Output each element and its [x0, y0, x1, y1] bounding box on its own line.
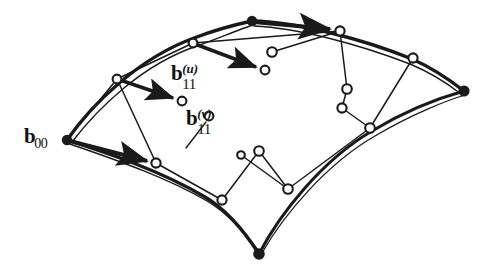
corner-b03: [253, 248, 265, 260]
bezier-patch-figure: b00 b(u)11 b(v)11: [0, 0, 495, 273]
control-net-edges: [67, 31, 413, 200]
boundary-top-left-inner: [72, 25, 253, 142]
edge-cp413-58-to-cp370-128: [370, 58, 413, 128]
label-b11v-base: b: [186, 106, 197, 130]
cp-interior-bottom: [254, 146, 264, 156]
cp-interior-upper: [261, 66, 270, 75]
cp-upper-left-2: [189, 39, 198, 48]
cp-b11u: [178, 97, 187, 106]
boundary-top-right-outer: [252, 21, 464, 91]
edge-cp340-31-to-cp347-89: [340, 31, 347, 89]
label-b11v-subscript: 11: [197, 122, 210, 137]
cp-interior-right-upper: [342, 84, 352, 94]
boundary-bottom-right-inner: [262, 95, 465, 253]
boundary-top-left-outer: [67, 21, 252, 140]
cp-bottom-junction-right: [283, 184, 293, 194]
label-b11u-subscript: 11: [182, 77, 195, 92]
edge-cp193-43-to-cp340-31: [193, 31, 340, 43]
cp-upper-left-1: [113, 75, 122, 84]
label-b11v: b(v)11: [186, 108, 197, 129]
cp-top-right-1: [335, 26, 344, 35]
label-b11u-superscript: (u): [182, 62, 198, 75]
label-b00: b00: [24, 126, 48, 147]
corner-b30: [247, 16, 257, 26]
boundary-bottom-left-outer: [67, 140, 259, 254]
cp-interior-top: [267, 47, 277, 57]
arrow-b30-to-top-right: [254, 22, 330, 29]
patch-diagram-svg: [0, 0, 495, 273]
arrow-to-b11u: [120, 80, 173, 98]
edge-cp288-189-to-cp370-128: [288, 128, 370, 189]
edge-cp259-151-to-cp288-189: [259, 151, 288, 189]
edge-cp67-140-to-cp117-79: [67, 79, 117, 140]
boundary-curves: [67, 21, 465, 254]
label-b11u: b(u)11: [171, 63, 182, 84]
corner-b33: [458, 85, 469, 96]
edge-cp241-155-to-cp288-189: [241, 155, 288, 189]
cp-lower-left-edge: [151, 158, 160, 167]
cp-interior-right-lower: [337, 103, 346, 112]
arrow-interior-upper: [195, 44, 256, 67]
corner-b00: [62, 135, 72, 145]
boundary-bottom-left-inner: [70, 144, 261, 254]
cp-top-right-2: [408, 53, 417, 62]
cp-right-lower-edge: [365, 123, 375, 133]
boundary-bottom-right-outer: [259, 91, 464, 254]
label-b11v-superscript: (v): [197, 107, 211, 120]
cp-interior-bottom-small: [237, 151, 245, 159]
label-b00-subscript: 00: [34, 136, 47, 151]
cp-bottom-junction-left: [217, 195, 226, 204]
corner-point-markers: [62, 16, 470, 260]
label-b11u-base: b: [171, 61, 182, 85]
edge-cp156-163-to-cp222-200: [156, 163, 222, 200]
